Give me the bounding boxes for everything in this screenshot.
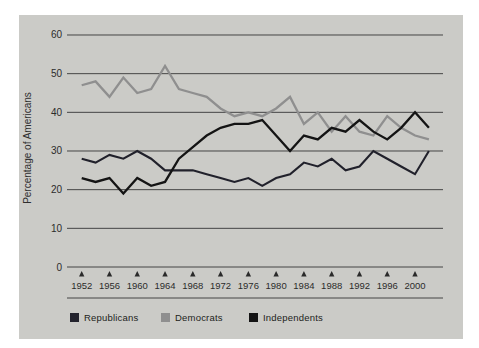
x-tick-triangle-1988 [329, 271, 334, 277]
legend-item-republicans: Republicans [70, 312, 138, 323]
series-line-democrats [82, 66, 429, 139]
x-tick-label-1964: 1964 [154, 280, 175, 291]
legend-label-independents: Independents [263, 312, 323, 323]
x-tick-label-1960: 1960 [127, 280, 148, 291]
y-tick-label-20: 20 [51, 184, 63, 195]
x-tick-triangle-1972 [218, 271, 223, 277]
x-tick-label-1952: 1952 [71, 280, 92, 291]
x-tick-triangle-1964 [162, 271, 167, 277]
x-tick-label-1984: 1984 [293, 280, 314, 291]
y-tick-label-50: 50 [51, 68, 63, 79]
x-tick-triangle-1996 [385, 271, 390, 277]
screenshot-frame: 0102030405060Percentage of Americans1952… [0, 0, 479, 348]
y-tick-label-30: 30 [51, 145, 63, 156]
legend-swatch-republicans [70, 313, 79, 322]
legend-label-democrats: Democrats [175, 312, 223, 323]
party-identification-line-chart: 0102030405060Percentage of Americans1952… [0, 0, 479, 348]
y-tick-label-60: 60 [51, 29, 63, 40]
y-tick-label-10: 10 [51, 223, 63, 234]
legend-item-independents: Independents [249, 312, 323, 323]
y-axis-title: Percentage of Americans [22, 92, 33, 204]
x-tick-triangle-2000 [412, 271, 417, 277]
x-tick-label-1980: 1980 [266, 280, 287, 291]
legend-swatch-democrats [161, 313, 170, 322]
x-tick-triangle-1980 [273, 271, 278, 277]
legend-swatch-independents [249, 313, 258, 322]
x-tick-label-1992: 1992 [349, 280, 370, 291]
x-tick-triangle-1984 [301, 271, 306, 277]
x-tick-label-1988: 1988 [321, 280, 342, 291]
x-tick-label-1996: 1996 [377, 280, 398, 291]
x-tick-triangle-1968 [190, 271, 195, 277]
x-tick-triangle-1992 [357, 271, 362, 277]
x-tick-triangle-1956 [107, 271, 112, 277]
y-tick-label-40: 40 [51, 107, 63, 118]
x-tick-triangle-1960 [135, 271, 140, 277]
y-tick-label-0: 0 [56, 262, 62, 273]
x-tick-label-2000: 2000 [404, 280, 425, 291]
x-tick-label-1968: 1968 [182, 280, 203, 291]
x-tick-triangle-1952 [79, 271, 84, 277]
legend-item-democrats: Democrats [161, 312, 223, 323]
legend-label-republicans: Republicans [84, 312, 138, 323]
x-tick-label-1972: 1972 [210, 280, 231, 291]
x-tick-label-1956: 1956 [99, 280, 120, 291]
x-tick-label-1976: 1976 [238, 280, 259, 291]
x-tick-triangle-1976 [246, 271, 251, 277]
